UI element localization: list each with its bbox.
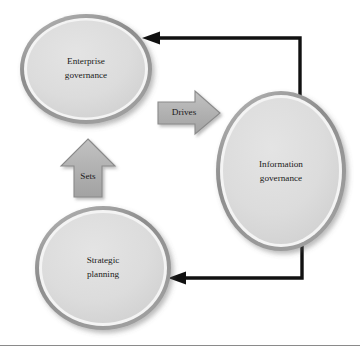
- block-arrow-label-sets: Sets: [80, 171, 96, 181]
- node-label-information-line2: governance: [260, 173, 302, 183]
- node-face: [223, 98, 339, 244]
- cycle-diagram: Enterprise governance Information govern…: [0, 0, 360, 352]
- node-enterprise-governance[interactable]: [20, 14, 152, 124]
- diagram-canvas: Enterprise governance Information govern…: [0, 0, 360, 352]
- node-label-enterprise-line2: governance: [65, 70, 107, 80]
- block-arrow-label-drives: Drives: [172, 107, 197, 117]
- node-label-enterprise-line1: Enterprise: [67, 56, 105, 66]
- node-label-information-line1: Information: [259, 159, 303, 169]
- node-face: [42, 213, 164, 323]
- node-label-strategic-line1: Strategic: [87, 255, 120, 265]
- node-information-governance[interactable]: [216, 91, 346, 251]
- node-face: [27, 21, 145, 118]
- node-label-strategic-line2: planning: [87, 269, 120, 279]
- node-strategic-planning[interactable]: [35, 206, 171, 330]
